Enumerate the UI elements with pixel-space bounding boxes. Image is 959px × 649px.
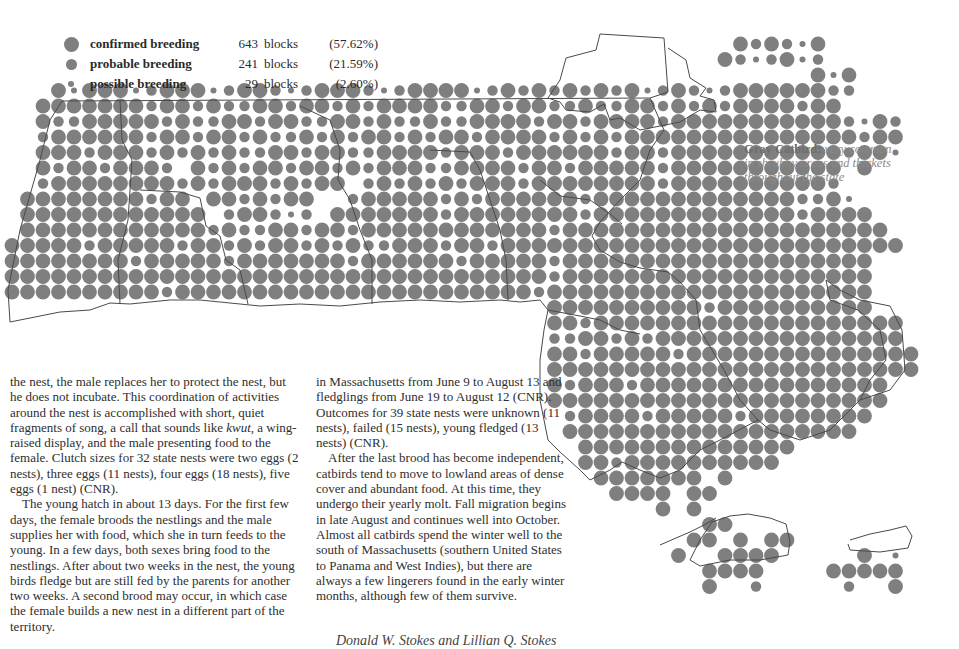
confirmed-dot xyxy=(377,207,392,222)
confirmed-dot xyxy=(67,238,82,253)
confirmed-dot xyxy=(284,176,299,191)
confirmed-dot xyxy=(175,223,190,238)
confirmed-dot xyxy=(609,300,624,315)
confirmed-dot xyxy=(315,285,330,300)
confirmed-dot xyxy=(718,285,733,300)
confirmed-dot xyxy=(671,316,686,331)
confirmed-dot xyxy=(609,486,624,501)
confirmed-dot xyxy=(51,238,66,253)
confirmed-dot xyxy=(671,192,686,207)
confirmed-dot xyxy=(780,285,795,300)
probable-dot xyxy=(518,178,528,188)
confirmed-dot xyxy=(268,114,283,129)
confirmed-dot xyxy=(361,254,376,269)
confirmed-dot xyxy=(501,223,516,238)
confirmed-dot xyxy=(625,440,640,455)
confirmed-dot xyxy=(764,192,779,207)
probable-dot xyxy=(673,349,683,359)
confirmed-dot xyxy=(780,347,795,362)
confirmed-dot xyxy=(439,176,454,191)
confirmed-dot xyxy=(175,254,190,269)
confirmed-dot xyxy=(206,238,221,253)
confirmed-dot xyxy=(222,269,237,284)
confirmed-dot xyxy=(485,161,500,176)
probable-dot xyxy=(642,333,652,343)
confirmed-dot xyxy=(470,238,485,253)
confirmed-dot xyxy=(501,176,516,191)
confirmed-dot xyxy=(795,362,810,377)
confirmed-dot xyxy=(563,316,578,331)
confirmed-dot xyxy=(795,378,810,393)
confirmed-dot xyxy=(206,285,221,300)
confirmed-dot xyxy=(718,331,733,346)
confirmed-dot xyxy=(594,176,609,191)
probable-dot xyxy=(611,333,621,343)
confirmed-dot xyxy=(284,114,299,129)
confirmed-dot xyxy=(764,238,779,253)
confirmed-dot xyxy=(377,145,392,160)
confirmed-dot xyxy=(408,99,423,114)
confirmed-dot xyxy=(733,99,748,114)
probable-dot xyxy=(441,147,451,157)
confirmed-dot xyxy=(702,285,717,300)
confirmed-dot xyxy=(718,440,733,455)
confirmed-dot xyxy=(609,223,624,238)
confirmed-dot xyxy=(702,378,717,393)
probable-dot xyxy=(813,54,823,64)
confirmed-dot xyxy=(129,223,144,238)
confirmed-dot xyxy=(423,99,438,114)
confirmed-dot xyxy=(780,300,795,315)
confirmed-dot xyxy=(811,409,826,424)
probable-dot xyxy=(658,178,668,188)
confirmed-dot xyxy=(702,207,717,222)
confirmed-dot xyxy=(609,238,624,253)
paragraph: the nest, the male replaces her to prote… xyxy=(10,374,300,496)
possible-dot xyxy=(381,88,387,94)
confirmed-dot xyxy=(237,114,252,129)
probable-dot xyxy=(549,225,559,235)
confirmed-dot xyxy=(408,145,423,160)
confirmed-dot xyxy=(826,362,841,377)
probable-dot xyxy=(239,101,249,111)
confirmed-dot xyxy=(780,533,795,548)
confirmed-dot xyxy=(315,269,330,284)
confirmed-dot xyxy=(268,269,283,284)
confirmed-dot xyxy=(671,378,686,393)
confirmed-dot xyxy=(826,347,841,362)
confirmed-dot xyxy=(873,316,888,331)
confirmed-dot xyxy=(609,114,624,129)
confirmed-dot xyxy=(5,285,20,300)
probable-dot xyxy=(255,240,265,250)
confirmed-dot xyxy=(640,99,655,114)
confirmed-dot xyxy=(718,52,733,67)
confirmed-dot xyxy=(625,145,640,160)
probable-dot xyxy=(53,163,63,173)
confirmed-dot xyxy=(20,254,35,269)
confirmed-dot xyxy=(361,269,376,284)
confirmed-dot xyxy=(392,192,407,207)
confirmed-dot xyxy=(377,161,392,176)
probable-dot xyxy=(394,85,404,95)
confirmed-dot xyxy=(485,114,500,129)
probable-dot xyxy=(890,116,900,126)
confirmed-dot xyxy=(594,362,609,377)
confirmed-dot xyxy=(625,393,640,408)
confirmed-dot xyxy=(206,192,221,207)
confirmed-dot xyxy=(671,223,686,238)
confirmed-dot xyxy=(671,130,686,145)
confirmed-dot xyxy=(826,99,841,114)
confirmed-dot xyxy=(98,207,113,222)
confirmed-dot xyxy=(826,331,841,346)
confirmed-dot xyxy=(656,285,671,300)
confirmed-dot xyxy=(640,362,655,377)
confirmed-dot xyxy=(873,564,888,579)
probable-dot xyxy=(332,101,342,111)
confirmed-dot xyxy=(144,114,159,129)
confirmed-dot xyxy=(361,223,376,238)
probable-dot xyxy=(549,256,559,266)
confirmed-dot xyxy=(857,362,872,377)
confirmed-dot xyxy=(702,223,717,238)
confirmed-dot xyxy=(191,285,206,300)
confirmed-dot xyxy=(873,238,888,253)
confirmed-dot xyxy=(578,424,593,439)
